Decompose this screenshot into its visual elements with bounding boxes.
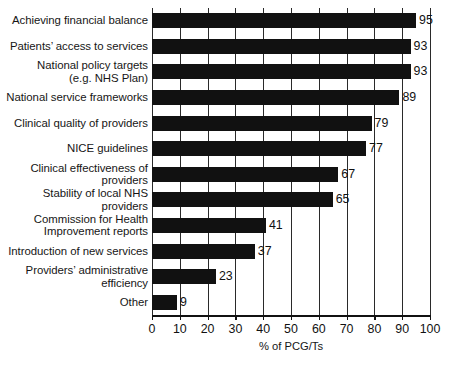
category-label: Patients’ access to services <box>0 40 148 53</box>
bar-value-label: 93 <box>414 64 428 79</box>
category-label: Clinical effectiveness of providers <box>0 162 148 187</box>
x-axis-tick-label: 0 <box>149 322 156 336</box>
x-axis-tick-label: 80 <box>367 322 381 336</box>
x-axis-tick <box>347 315 348 320</box>
x-axis-tick-label: 60 <box>312 322 326 336</box>
category-label: Clinical quality of providers <box>0 117 148 130</box>
x-axis-tick <box>319 315 320 320</box>
gridline <box>319 8 320 315</box>
bar-value-label: 79 <box>375 116 389 131</box>
bar <box>152 141 366 156</box>
category-label: National policy targets (e.g. NHS Plan) <box>0 59 148 84</box>
bar <box>152 39 411 54</box>
bar-value-label: 41 <box>269 218 283 233</box>
bar-value-label: 77 <box>369 141 383 156</box>
bar-value-label: 95 <box>419 13 433 28</box>
bar <box>152 295 177 310</box>
bar-value-label: 93 <box>414 39 428 54</box>
gridline <box>430 8 431 315</box>
x-axis-tick <box>180 315 181 320</box>
x-axis-tick <box>374 315 375 320</box>
category-label: National service frameworks <box>0 91 148 104</box>
gridline <box>402 8 403 315</box>
category-label: Other <box>0 296 148 309</box>
x-axis-tick <box>152 315 153 320</box>
bar-value-label: 37 <box>258 244 272 259</box>
bar <box>152 218 266 233</box>
x-axis-tick-label: 50 <box>284 322 298 336</box>
plot-area <box>152 8 430 315</box>
gridline <box>235 8 236 315</box>
bar-value-label: 67 <box>341 167 355 182</box>
x-axis-tick <box>430 315 431 320</box>
gridline <box>374 8 375 315</box>
x-axis-tick <box>402 315 403 320</box>
bar-value-label: 89 <box>402 90 416 105</box>
x-axis-tick-label: 40 <box>256 322 270 336</box>
x-axis-tick <box>263 315 264 320</box>
x-axis-tick-label: 30 <box>228 322 242 336</box>
category-label: Providers’ administrative efficiency <box>0 264 148 289</box>
category-label: NICE guidelines <box>0 142 148 155</box>
category-label-column: Achieving financial balancePatients’ acc… <box>0 8 148 315</box>
bar-chart: Achieving financial balancePatients’ acc… <box>0 0 456 369</box>
bar-value-label: 9 <box>180 295 187 310</box>
x-axis-tick-label: 20 <box>201 322 215 336</box>
x-axis-tick <box>208 315 209 320</box>
x-axis-tick-label: 90 <box>395 322 409 336</box>
gridline <box>263 8 264 315</box>
category-label: Commission for Health Improvement report… <box>0 213 148 238</box>
bar-value-label: 65 <box>336 192 350 207</box>
bar <box>152 13 416 28</box>
x-axis-tick-label: 100 <box>420 322 441 336</box>
bar <box>152 269 216 284</box>
bar <box>152 167 338 182</box>
bar-value-label: 23 <box>219 269 233 284</box>
gridline <box>291 8 292 315</box>
x-axis-tick-label: 70 <box>340 322 354 336</box>
x-axis-tick <box>291 315 292 320</box>
gridline <box>347 8 348 315</box>
x-axis-tick <box>235 315 236 320</box>
bar <box>152 64 411 79</box>
category-label: Stability of local NHS providers <box>0 187 148 212</box>
bar <box>152 244 255 259</box>
bar <box>152 192 333 207</box>
category-label: Introduction of new services <box>0 245 148 258</box>
category-label: Achieving financial balance <box>0 14 148 27</box>
bar <box>152 90 399 105</box>
bar <box>152 116 372 131</box>
x-axis-tick-label: 10 <box>173 322 187 336</box>
x-axis-title: % of PCG/Ts <box>152 340 430 352</box>
